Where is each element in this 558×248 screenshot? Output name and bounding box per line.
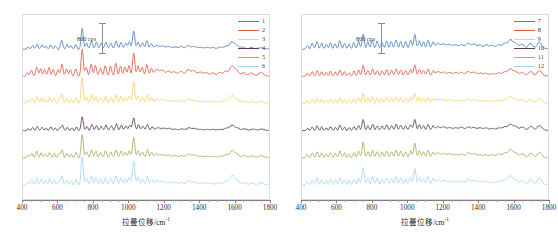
x-tick-minor — [354, 200, 355, 202]
x-tick-major — [270, 200, 271, 203]
spectrum-trace — [302, 93, 548, 104]
legend-item-label: 8 — [538, 26, 541, 34]
spectra-canvas-right — [302, 15, 548, 199]
legend-color-swatch — [238, 39, 259, 40]
x-tick-major — [128, 200, 129, 203]
x-tick-minor — [496, 200, 497, 202]
x-tick-minor — [310, 200, 311, 202]
spectrum-trace — [302, 65, 548, 77]
x-tick-minor — [487, 200, 488, 202]
legend-item-label: 7 — [538, 17, 541, 25]
x-tick-minor — [119, 200, 120, 202]
x-tick-label: 1800 — [263, 204, 277, 212]
legend-item[interactable]: 3 — [238, 35, 265, 43]
x-tick-label: 1800 — [542, 204, 556, 212]
x-tick-minor — [469, 200, 470, 202]
x-tick-minor — [531, 200, 532, 202]
legend-item[interactable]: 10 — [514, 44, 544, 52]
x-tick-label: 1400 — [471, 204, 485, 212]
x-tick-label: 600 — [52, 204, 63, 212]
legend-item[interactable]: 12 — [514, 62, 544, 70]
legend-item-label: 3 — [262, 35, 265, 43]
x-tick-minor — [345, 200, 346, 202]
x-tick-minor — [328, 200, 329, 202]
legend-item[interactable]: 5 — [238, 53, 265, 61]
x-tick-minor — [363, 200, 364, 202]
x-tick-minor — [398, 200, 399, 202]
legend-color-swatch — [514, 21, 535, 22]
scale-bar-ibeam-icon — [99, 23, 106, 54]
legend-item[interactable]: 8 — [514, 26, 544, 34]
x-tick-label: 1000 — [400, 204, 414, 212]
legend-item[interactable]: 11 — [514, 53, 544, 61]
x-tick-label: 800 — [366, 204, 377, 212]
x-tick-minor — [505, 200, 506, 202]
plot-area-left: 800 cps 123456 — [22, 14, 270, 200]
x-axis-title-right: 拉曼位移/cm-1 — [301, 216, 549, 227]
plot-area-right: 800 cps 789101112 — [301, 14, 549, 200]
legend-item[interactable]: 7 — [514, 17, 544, 25]
x-tick-label: 1200 — [157, 204, 171, 212]
spectrum-trace — [23, 28, 269, 49]
x-tick-minor — [173, 200, 174, 202]
x-tick-label: 400 — [296, 204, 307, 212]
x-tick-major — [301, 200, 302, 203]
x-tick-minor — [226, 200, 227, 202]
raman-spectra-figure: 800 cps 123456 4006008001000120014001600… — [0, 0, 558, 248]
x-tick-minor — [243, 200, 244, 202]
legend-right: 789101112 — [514, 17, 544, 70]
legend-item[interactable]: 1 — [238, 17, 265, 25]
x-tick-minor — [390, 200, 391, 202]
x-axis-title-exponent: -1 — [166, 216, 170, 222]
x-tick-major — [57, 200, 58, 203]
x-axis-title-exponent: -1 — [445, 216, 449, 222]
x-axis-title-text: 拉曼位移/cm — [122, 218, 165, 227]
x-tick-minor — [66, 200, 67, 202]
x-tick-minor — [146, 200, 147, 202]
scale-bar-right: 800 cps — [356, 23, 385, 54]
x-tick-label: 1000 — [121, 204, 135, 212]
legend-item-label: 6 — [262, 62, 265, 70]
legend-item-label: 5 — [262, 53, 265, 61]
x-axis-title-text: 拉曼位移/cm — [401, 218, 444, 227]
x-tick-label: 600 — [331, 204, 342, 212]
legend-item-label: 2 — [262, 26, 265, 34]
scale-bar-left: 800 cps — [77, 23, 106, 54]
x-tick-major — [407, 200, 408, 203]
spectrum-trace — [23, 117, 269, 131]
x-tick-minor — [208, 200, 209, 202]
spectrum-trace — [23, 157, 269, 186]
legend-item[interactable]: 4 — [238, 44, 265, 52]
x-tick-minor — [190, 200, 191, 202]
legend-item[interactable]: 6 — [238, 62, 265, 70]
x-tick-minor — [49, 200, 50, 202]
x-tick-major — [164, 200, 165, 203]
x-tick-major — [22, 200, 23, 203]
spectrum-trace — [302, 119, 548, 131]
legend-item-label: 1 — [262, 17, 265, 25]
x-tick-label: 1200 — [436, 204, 450, 212]
x-tick-major — [93, 200, 94, 203]
x-tick-major — [372, 200, 373, 203]
x-tick-minor — [434, 200, 435, 202]
x-tick-minor — [111, 200, 112, 202]
x-tick-minor — [522, 200, 523, 202]
panel-right: 800 cps 789101112 4006008001000120014001… — [279, 0, 558, 248]
x-axis-tick-labels-left: 40060080010001200140016001800 — [22, 204, 270, 216]
spectrum-trace — [302, 142, 548, 158]
legend-color-swatch — [514, 30, 535, 31]
x-tick-minor — [460, 200, 461, 202]
legend-color-swatch — [514, 48, 535, 49]
x-tick-minor — [319, 200, 320, 202]
x-tick-minor — [31, 200, 32, 202]
x-tick-major — [199, 200, 200, 203]
panel-left: 800 cps 123456 4006008001000120014001600… — [0, 0, 279, 248]
legend-item[interactable]: 2 — [238, 26, 265, 34]
x-tick-major — [443, 200, 444, 203]
legend-color-swatch — [514, 39, 535, 40]
legend-item[interactable]: 9 — [514, 35, 544, 43]
x-tick-minor — [416, 200, 417, 202]
legend-item-label: 12 — [538, 62, 544, 70]
x-tick-minor — [137, 200, 138, 202]
legend-item-label: 11 — [538, 53, 544, 61]
